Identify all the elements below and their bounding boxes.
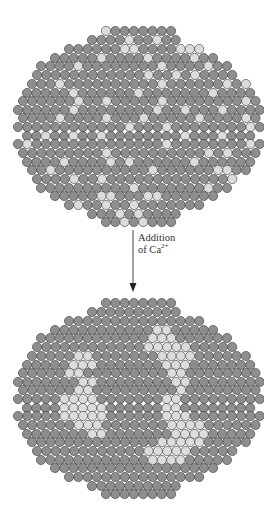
lipid-dark [97, 209, 106, 218]
lipid-light [167, 455, 176, 464]
down-arrow-icon [130, 230, 137, 292]
lipid-dark [37, 113, 46, 122]
lipid-dark [111, 148, 120, 157]
lipid-dark [171, 53, 180, 62]
lipid-light [106, 191, 115, 200]
lipid-light [60, 157, 69, 166]
lipid-light [148, 455, 157, 464]
lipid-light [84, 385, 93, 394]
lipid-dark [186, 385, 195, 394]
lipid-dark [232, 437, 241, 446]
lipid-dark [106, 105, 115, 114]
lipid-dark [65, 79, 74, 88]
lipid-dark [102, 437, 111, 446]
lipid-dark [143, 209, 152, 218]
lipid-dark [185, 316, 194, 325]
lipid-dark [36, 183, 45, 192]
lipid-light [153, 342, 162, 351]
lipid-dark [18, 368, 27, 377]
lipid-dark [42, 174, 51, 183]
lipid-dark [101, 489, 110, 498]
lipid-dark [241, 437, 250, 446]
lipid-dark [134, 307, 143, 316]
lipid-dark [139, 316, 148, 325]
lipid-dark [50, 325, 59, 334]
lipid-dark [88, 122, 97, 131]
lipid-dark [60, 325, 69, 334]
lipid-light [158, 96, 167, 105]
lipid-dark [190, 122, 199, 131]
lipid-dark [56, 368, 65, 377]
lipid-dark [120, 437, 129, 446]
lipid-dark [130, 351, 139, 360]
lipid-dark [171, 307, 180, 316]
lipid-light [97, 411, 106, 420]
lipid-dark [92, 333, 101, 342]
lipid-dark [227, 377, 236, 386]
lipid-dark [32, 394, 41, 403]
lipid-dark [27, 351, 36, 360]
lipid-dark [64, 61, 73, 70]
lipid-dark [116, 174, 125, 183]
lipid-light [129, 183, 138, 192]
lipid-dark [162, 307, 171, 316]
lipid-dark [223, 437, 232, 446]
lipid-dark [171, 191, 180, 200]
lipid-light [162, 139, 171, 148]
lipid-dark [218, 411, 227, 420]
lipid-dark [60, 70, 69, 79]
lipid-dark [23, 377, 32, 386]
lipid-dark [172, 139, 181, 148]
membrane-diagram [0, 0, 264, 514]
lipid-dark [167, 96, 176, 105]
lipid-dark [255, 394, 264, 403]
lipid-dark [185, 183, 194, 192]
lipid-dark [74, 437, 83, 446]
lipid-light [106, 157, 115, 166]
lipid-dark [46, 79, 55, 88]
lipid-dark [139, 148, 148, 157]
lipid-dark [60, 429, 69, 438]
lipid-dark [204, 437, 213, 446]
lipid-light [172, 342, 181, 351]
lipid-dark [36, 61, 45, 70]
lipid-dark [149, 148, 158, 157]
lipid-dark [83, 79, 92, 88]
lipid-dark [199, 411, 208, 420]
lipid-dark [125, 446, 134, 455]
lipid-dark [200, 446, 209, 455]
lipid-dark [13, 122, 22, 131]
lipid-dark [241, 165, 250, 174]
lipid-dark [93, 96, 102, 105]
lipid-dark [46, 385, 55, 394]
lipid-dark [50, 157, 59, 166]
lipid-dark [186, 368, 195, 377]
lipid-dark [218, 70, 227, 79]
lipid-dark [37, 351, 46, 360]
lipid-dark [32, 70, 41, 79]
lipid-dark [139, 298, 148, 307]
lipid-dark [246, 377, 255, 386]
lipid-dark [106, 325, 115, 334]
lipid-dark [88, 105, 97, 114]
lipid-dark [69, 325, 78, 334]
lipid-dark [74, 333, 83, 342]
lipid-dark [237, 105, 246, 114]
lipid-dark [143, 481, 152, 490]
lipid-dark [148, 437, 157, 446]
lipid-light [143, 191, 152, 200]
lipid-dark [92, 316, 101, 325]
lipid-dark [227, 394, 236, 403]
lipid-light [120, 44, 129, 53]
lipid-light [74, 385, 83, 394]
lipid-dark [218, 139, 227, 148]
lipid-light [177, 420, 186, 429]
lipid-dark [214, 368, 223, 377]
lipid-dark [162, 377, 171, 386]
lipid-dark [32, 342, 41, 351]
lipid-dark [116, 105, 125, 114]
lipid-light [115, 209, 124, 218]
lipid-light [102, 113, 111, 122]
lipid-dark [65, 437, 74, 446]
lipid-dark [167, 79, 176, 88]
